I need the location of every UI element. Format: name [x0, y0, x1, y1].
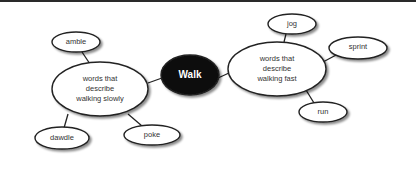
fast-branch-label: words that describe walking fast — [257, 54, 296, 84]
slow-line-3: walking slowly — [76, 94, 124, 104]
center-label: Walk — [179, 70, 202, 80]
slow-line-1: words that — [76, 74, 124, 84]
run-label: run — [318, 107, 329, 117]
concept-map-graphics — [0, 0, 416, 169]
poke-label: poke — [144, 130, 160, 140]
slow-branch-label: words that describe walking slowly — [76, 74, 124, 104]
dawdle-label: dawdle — [50, 133, 74, 143]
fast-line-2: describe — [257, 64, 296, 74]
amble-label: amble — [66, 37, 86, 47]
sprint-label: sprint — [349, 42, 367, 52]
jog-label: jog — [287, 19, 297, 29]
fast-line-3: walking fast — [257, 74, 296, 84]
fast-line-1: words that — [257, 54, 296, 64]
slow-line-2: describe — [76, 84, 124, 94]
